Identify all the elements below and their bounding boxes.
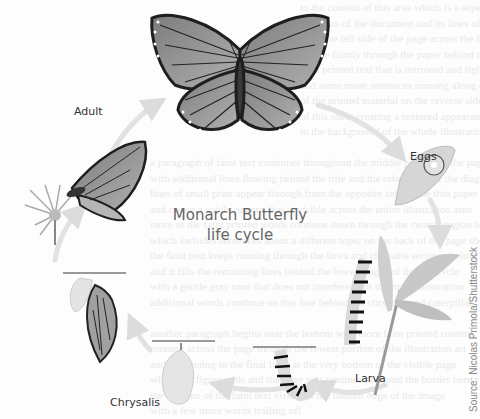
life-cycle-diagram: to the content of this area which is a s…: [0, 0, 480, 419]
chrysalis-icon: [152, 341, 215, 404]
image-credit: Source: Nicolas Primola/Shutterstock: [468, 247, 479, 412]
arrow-caterpillar-to-chrysalis: [218, 385, 285, 390]
stage-label-adult: Adult: [74, 105, 103, 118]
title-line-1: Monarch Butterfly: [150, 205, 330, 225]
larva-on-plant-icon: [349, 235, 460, 395]
arrow-eggs-to-larva: [430, 200, 440, 240]
emerging-butterfly-icon: [63, 273, 126, 362]
diagram-title: Monarch Butterfly life cycle: [150, 205, 330, 245]
stage-label-chrysalis: Chrysalis: [110, 396, 160, 409]
title-line-2: life cycle: [150, 225, 330, 245]
arrow-adult-to-eggs: [318, 105, 400, 155]
adult-butterfly-icon: [152, 15, 329, 131]
stage-label-eggs: Eggs: [410, 150, 437, 163]
stage-label-larva: Larva: [355, 372, 386, 385]
adult-on-flower-icon: [25, 142, 146, 245]
arrow-chrysalis-to-emerging: [132, 322, 150, 350]
